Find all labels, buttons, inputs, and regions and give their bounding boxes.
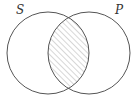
set-label-s: S (16, 4, 24, 16)
set-label-p: P (115, 4, 123, 16)
venn-diagram: S P (0, 0, 139, 103)
